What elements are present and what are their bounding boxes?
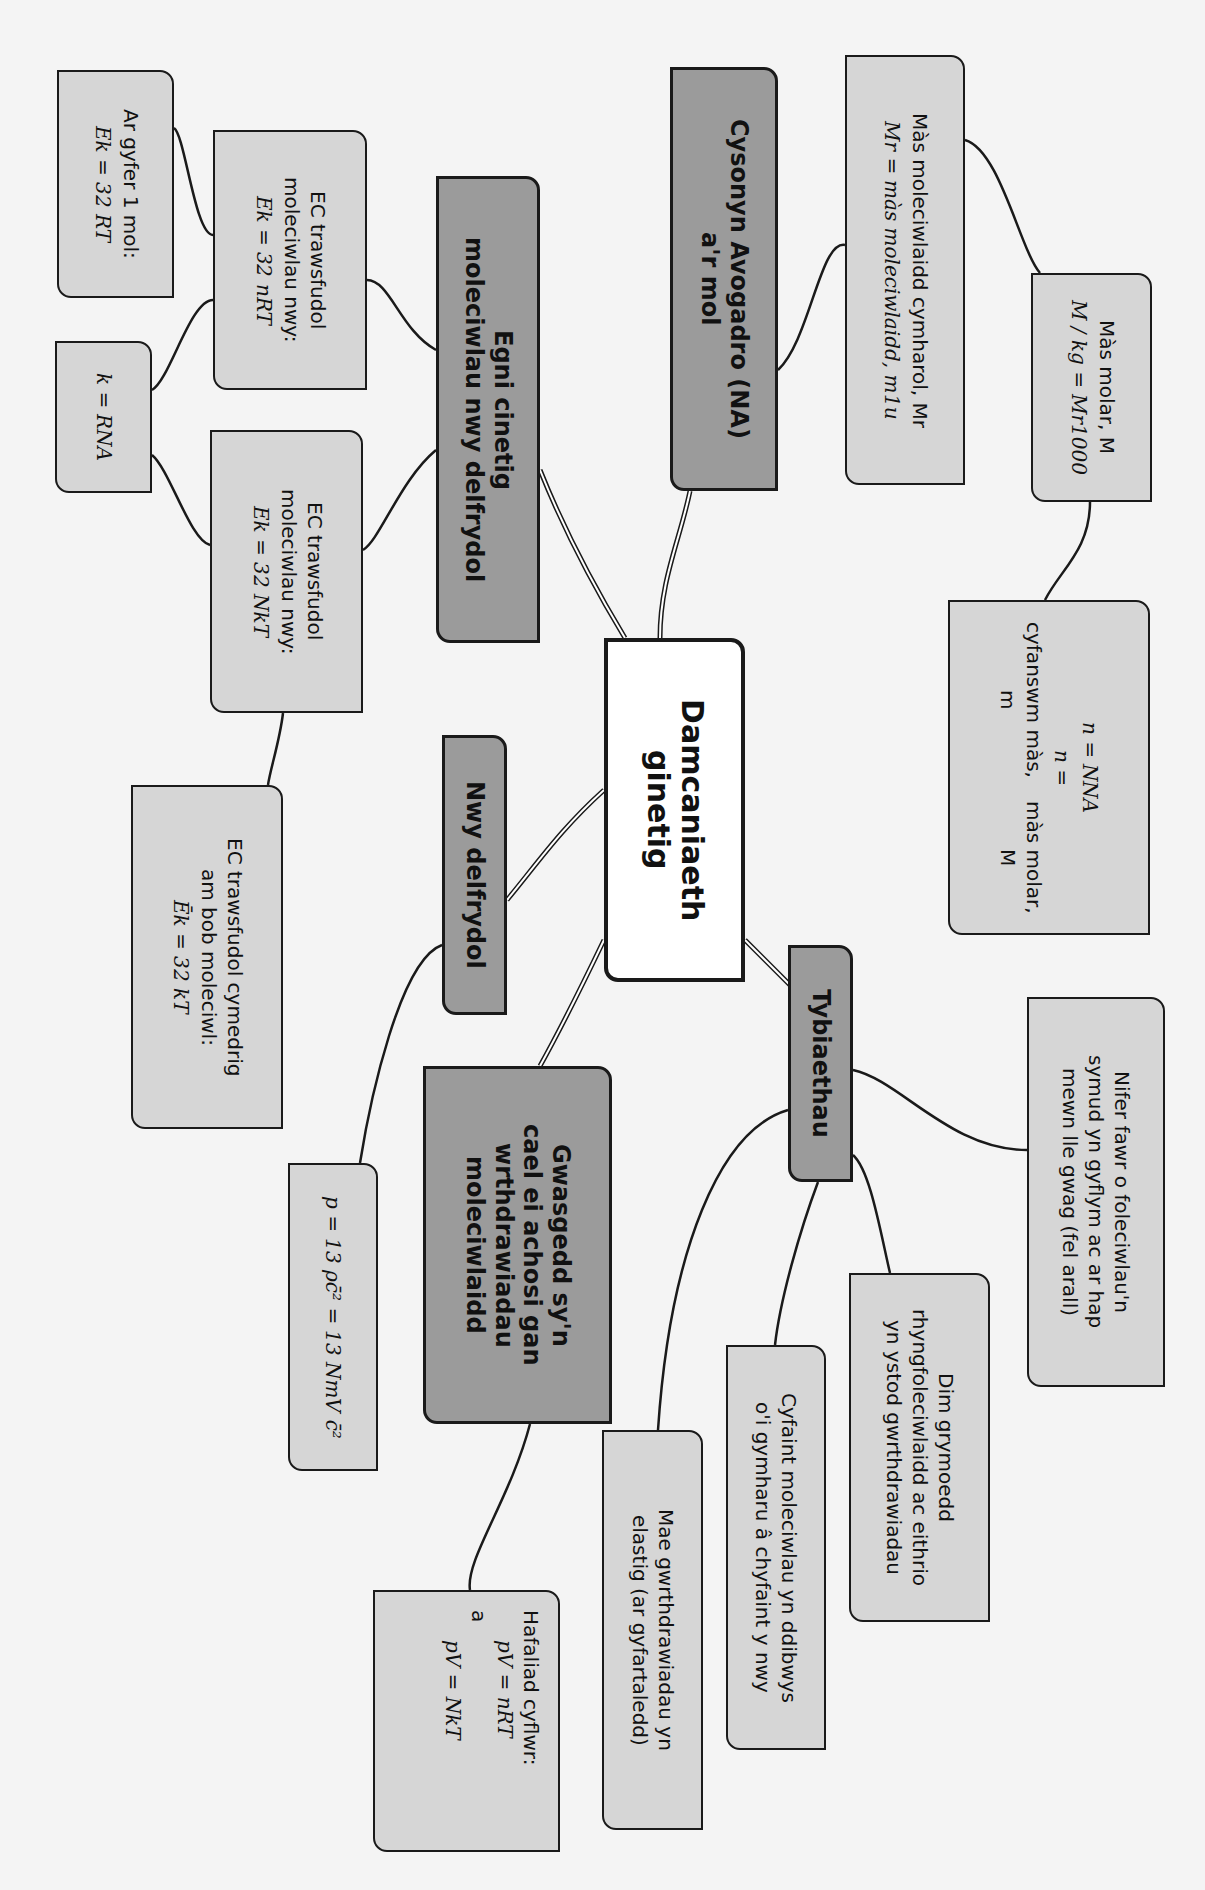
leaf-relative-molecular-mass[interactable]: Màs moleciwlaidd cymharol, Mr Mr = màs m… bbox=[845, 55, 965, 485]
molar-mass-equation: M / kg = Mr 1000 bbox=[1064, 300, 1094, 475]
volume-line-1: Cyfaint moleciwlau yn ddibwys bbox=[776, 1393, 802, 1703]
topic-avogadro-line-2: a'r mol bbox=[695, 232, 724, 325]
moles-eq1-lhs: n = bbox=[1078, 722, 1102, 758]
leaf-negligible-volume[interactable]: Cyfaint moleciwlau yn ddibwys o'i gymhar… bbox=[726, 1345, 826, 1750]
leaf-elastic-collisions[interactable]: Mae gwrthdrawiadau yn elastig (ar gyfart… bbox=[602, 1430, 703, 1830]
topic-assumptions[interactable]: Tybiaethau bbox=[788, 945, 853, 1182]
one-mol-equation: Ek = 3 2 RT bbox=[88, 126, 118, 242]
ec-nrt-line-1: EC trawsfudol bbox=[305, 191, 331, 329]
leaf-ec-translational-nkt[interactable]: EC trawsfudol moleciwlau nwy: Ek = 3 2 N… bbox=[210, 430, 363, 713]
one-mol-fraction: 3 2 bbox=[90, 182, 116, 207]
topic-avogadro-line-1: Cysonyn Avogadro (NA) bbox=[724, 119, 753, 439]
center-node-kinetic-theory[interactable]: Damcaniaeth ginetig bbox=[604, 638, 745, 982]
leaf-no-intermolecular-forces[interactable]: Dim grymoedd rhyngfoleciwlaidd ac eithri… bbox=[849, 1273, 990, 1622]
ec-nkt-line-2: moleciwlau nwy: bbox=[276, 489, 302, 655]
ec-nrt-denominator: 2 bbox=[251, 264, 277, 277]
topic-pressure[interactable]: Gwasgedd sy'n cael ei achosi gan wrthdra… bbox=[423, 1066, 612, 1424]
leaf-number-of-moles[interactable]: n = N NA n = cyfanswm màs, m màs molar, … bbox=[948, 600, 1150, 935]
ec-nkt-rhs: NkT bbox=[249, 594, 273, 637]
pressure-numerator-2: 1 bbox=[320, 1330, 346, 1343]
center-title-line-2: ginetig bbox=[640, 750, 675, 870]
moles-eq1-numerator: N bbox=[1077, 764, 1103, 782]
many-molecules-line-3: mewn lle gwag (fel arall) bbox=[1057, 1068, 1083, 1316]
gas-equation-1: pV = nRT bbox=[492, 1640, 518, 1738]
relative-mass-lhs: Mr = bbox=[880, 121, 904, 174]
leaf-many-molecules[interactable]: Nifer fawr o foleciwlau'n symud yn gyfly… bbox=[1027, 997, 1165, 1387]
pressure-fraction-3: Nm V bbox=[320, 1362, 346, 1413]
boltzmann-numerator: R bbox=[91, 414, 117, 429]
molar-mass-numerator: Mr bbox=[1066, 394, 1092, 424]
elastic-line-1: Mae gwrthdrawiadau yn bbox=[653, 1509, 679, 1751]
ec-mean-line-1: EC trawsfudol cymedrig bbox=[222, 838, 248, 1076]
leaf-molar-mass[interactable]: Màs molar, M M / kg = Mr 1000 bbox=[1031, 273, 1152, 502]
relative-mass-fraction: màs moleciwlaidd, m 1u bbox=[879, 180, 905, 419]
ec-nrt-lhs: Ek = bbox=[252, 196, 276, 246]
many-molecules-line-1: Nifer fawr o foleciwlau'n bbox=[1109, 1071, 1135, 1313]
ec-nrt-equation: Ek = 3 2 nRT bbox=[249, 196, 279, 325]
ec-mean-numerator: 3 bbox=[168, 956, 194, 969]
topic-kinetic-energy-line-2: moleciwlau nwy delfrydol bbox=[459, 237, 488, 582]
leaf-boltzmann-constant[interactable]: k = R NA bbox=[55, 341, 152, 493]
center-title-line-1: Damcaniaeth bbox=[675, 699, 710, 921]
topic-pressure-line-3: wrthdrawiadau bbox=[489, 1143, 518, 1348]
ec-mean-rhs: kT bbox=[169, 988, 193, 1013]
topic-pressure-line-4: moleciwlaidd bbox=[460, 1156, 489, 1334]
leaf-ec-translational-nrt[interactable]: EC trawsfudol moleciwlau nwy: Ek = 3 2 n… bbox=[213, 130, 367, 390]
leaf-ec-mean-per-molecule[interactable]: EC trawsfudol cymedrig am bob moleciwl: … bbox=[131, 785, 283, 1129]
leaf-one-mole[interactable]: Ar gyfer 1 mol: Ek = 3 2 RT bbox=[57, 70, 174, 298]
ec-mean-line-2: am bob moleciwl: bbox=[196, 869, 222, 1046]
moles-equation-1: n = N NA bbox=[1075, 722, 1105, 814]
ec-nrt-line-2: moleciwlau nwy: bbox=[279, 177, 305, 343]
ec-nkt-line-1: EC trawsfudol bbox=[302, 502, 328, 640]
leaf-pressure-equation[interactable]: p = 1 3 ρc̄² = 1 3 Nm V c̄² bbox=[288, 1163, 378, 1471]
volume-line-2: o'i gymharu â chyfaint y nwy bbox=[750, 1402, 776, 1693]
topic-ideal-gas-label: Nwy delfrydol bbox=[460, 781, 489, 969]
ec-mean-lhs: Ēk = bbox=[169, 900, 193, 950]
topic-pressure-line-2: cael ei achosi gan bbox=[518, 1124, 547, 1365]
ec-nkt-equation: Ek = 3 2 NkT bbox=[246, 506, 276, 637]
ec-nrt-rhs: nRT bbox=[252, 284, 276, 325]
ec-nkt-denominator: 2 bbox=[248, 575, 274, 588]
no-forces-line-1: Dim grymoedd bbox=[933, 1373, 959, 1522]
boltzmann-denominator: NA bbox=[91, 429, 117, 461]
pressure-denominator-2: 3 bbox=[320, 1343, 346, 1356]
moles-eq2-lhs: n = bbox=[1050, 750, 1074, 786]
relative-mass-equation: Mr = màs moleciwlaidd, m 1u bbox=[877, 121, 907, 420]
ec-nkt-numerator: 3 bbox=[248, 562, 274, 575]
moles-equation-2: n = cyfanswm màs, m màs molar, M bbox=[993, 610, 1075, 925]
moles-eq2-denominator: màs molar, M bbox=[995, 790, 1047, 925]
many-molecules-line-2: symud yn gyflym ac ar hap bbox=[1083, 1055, 1109, 1328]
boltzmann-equation: k = R NA bbox=[89, 373, 119, 462]
ec-mean-equation: Ēk = 3 2 kT bbox=[166, 900, 196, 1014]
ec-nrt-fraction: 3 2 bbox=[251, 252, 277, 277]
topic-avogadro-constant[interactable]: Cysonyn Avogadro (NA) a'r mol bbox=[670, 67, 778, 491]
pressure-mid: ρc̄² = bbox=[321, 1270, 345, 1324]
ec-mean-denominator: 2 bbox=[168, 969, 194, 982]
topic-assumptions-label: Tybiaethau bbox=[806, 989, 835, 1138]
relative-mass-denominator: 1u bbox=[879, 394, 905, 420]
pressure-fraction-1: 1 3 bbox=[320, 1238, 346, 1263]
moles-eq1-fraction: N NA bbox=[1077, 764, 1103, 813]
one-mol-title: Ar gyfer 1 mol: bbox=[118, 109, 144, 259]
leaf-equation-of-state[interactable]: Hafaliad cyflwr: pV = nRT a pV = NkT bbox=[373, 1590, 560, 1852]
pressure-equation: p = 1 3 ρc̄² = 1 3 Nm V c̄² bbox=[318, 1196, 348, 1439]
one-mol-lhs: Ek = bbox=[91, 126, 115, 176]
molar-mass-title: Màs molar, M bbox=[1094, 320, 1120, 454]
moles-eq2-fraction: cyfanswm màs, m màs molar, M bbox=[995, 610, 1047, 925]
relative-mass-numerator: màs moleciwlaidd, m bbox=[879, 180, 905, 393]
moles-eq2-numerator: cyfanswm màs, m bbox=[995, 610, 1047, 790]
molar-mass-denominator: 1000 bbox=[1066, 424, 1092, 475]
one-mol-numerator: 3 bbox=[90, 182, 116, 195]
topic-kinetic-energy[interactable]: Egni cinetig moleciwlau nwy delfrydol bbox=[436, 176, 540, 643]
boltzmann-fraction: R NA bbox=[91, 414, 117, 461]
pressure-rhs: c̄² bbox=[321, 1419, 345, 1438]
ec-nkt-fraction: 3 2 bbox=[248, 562, 274, 587]
ec-nrt-numerator: 3 bbox=[251, 252, 277, 265]
molar-mass-lhs: M / kg = bbox=[1067, 300, 1091, 388]
molar-mass-fraction: Mr 1000 bbox=[1066, 394, 1092, 475]
boltzmann-lhs: k = bbox=[92, 373, 116, 408]
gas-equation-conjunction: a bbox=[466, 1610, 492, 1622]
gas-equation-2: pV = NkT bbox=[440, 1640, 466, 1740]
one-mol-denominator: 2 bbox=[90, 195, 116, 208]
topic-ideal-gas[interactable]: Nwy delfrydol bbox=[442, 735, 507, 1015]
